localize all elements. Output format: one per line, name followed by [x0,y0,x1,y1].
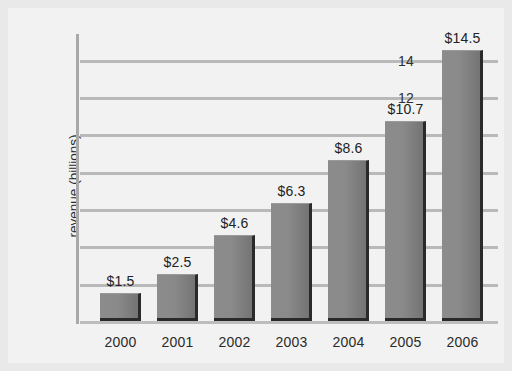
x-tick-label-2000: 2000 [100,334,141,350]
bar-2000[interactable] [100,293,141,321]
bar-2002[interactable] [214,235,255,321]
x-axis-baseline [80,321,498,324]
bar-group-2005: $10.7 [385,121,426,321]
bar-group-2003: $6.3 [271,203,312,321]
x-tick-label-2001: 2001 [157,334,198,350]
chart-panel: revenue (billions) 14 12 10 8 6 4 2 $1.5 [8,8,504,363]
bar-group-2004: $8.6 [328,160,369,321]
bar-group-2002: $4.6 [214,235,255,321]
bar-2006[interactable] [442,50,483,321]
bar-value-2005: $10.7 [387,101,423,117]
bar-chart-figure: revenue (billions) 14 12 10 8 6 4 2 $1.5 [0,0,512,371]
x-tick-label-2003: 2003 [271,334,312,350]
plot-area: 14 12 10 8 6 4 2 $1.5 $2.5 $4.6 $6.3 [80,34,498,324]
bar-2005[interactable] [385,121,426,321]
y-tick-label-14: 14 [384,53,414,69]
gridline-12 [80,97,498,100]
x-tick-label-2006: 2006 [442,334,483,350]
x-tick-label-2004: 2004 [328,334,369,350]
bar-group-2001: $2.5 [157,274,198,321]
gridline-10 [80,134,498,137]
bar-value-2001: $2.5 [163,254,191,270]
gridline-14 [80,60,498,63]
bar-value-2006: $14.5 [444,30,480,46]
bar-value-2002: $4.6 [220,215,248,231]
bar-group-2000: $1.5 [100,293,141,321]
gridline-8 [80,172,498,175]
bar-2004[interactable] [328,160,369,321]
bar-group-2006: $14.5 [442,50,483,321]
bar-value-2000: $1.5 [106,273,134,289]
bar-value-2004: $8.6 [334,140,362,156]
bar-value-2003: $6.3 [277,183,305,199]
x-tick-label-2005: 2005 [385,334,426,350]
bar-2003[interactable] [271,203,312,321]
bar-2001[interactable] [157,274,198,321]
x-tick-label-2002: 2002 [214,334,255,350]
y-axis-line [76,34,79,324]
